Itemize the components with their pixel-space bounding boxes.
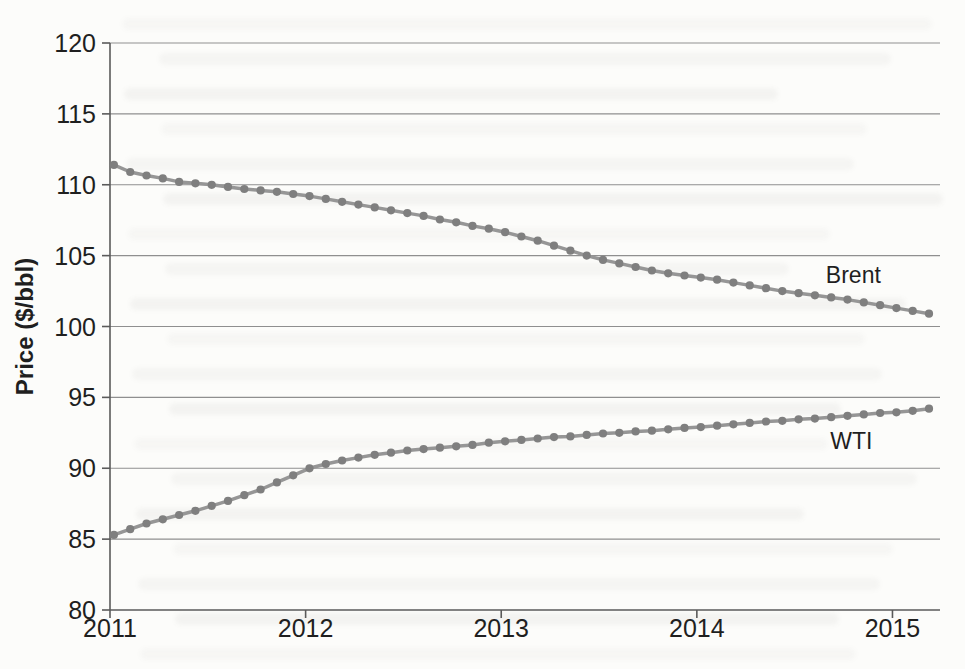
brent-data-point — [501, 228, 509, 236]
brent-data-point — [208, 181, 216, 189]
wti-data-point — [354, 454, 362, 462]
brent-data-point — [680, 271, 688, 279]
y-tick-label-120: 120 — [54, 29, 96, 57]
brent-data-point — [778, 287, 786, 295]
wti-data-point — [452, 442, 460, 450]
y-tick-label-90: 90 — [68, 454, 96, 482]
wti-data-point — [648, 427, 656, 435]
wti-data-point — [305, 464, 313, 472]
brent-data-point — [452, 218, 460, 226]
wti-data-point — [795, 415, 803, 423]
brent-data-point — [795, 289, 803, 297]
brent-data-point — [191, 179, 199, 187]
brent-data-point — [843, 296, 851, 304]
y-tick-label-110: 110 — [56, 171, 96, 199]
brent-data-point — [811, 291, 819, 299]
wti-data-point — [843, 412, 851, 420]
wti-data-point — [289, 471, 297, 479]
wti-data-point — [583, 431, 591, 439]
wti-data-point — [273, 478, 281, 486]
brent-data-point — [224, 183, 232, 191]
brent-data-point — [468, 222, 476, 230]
wti-data-point — [322, 460, 330, 468]
brent-data-point — [876, 301, 884, 309]
y-tick-label-115: 115 — [56, 100, 96, 128]
wti-data-point — [436, 444, 444, 452]
series-label-brent: Brent — [826, 262, 882, 288]
wti-data-point — [110, 531, 118, 539]
wti-data-point — [713, 422, 721, 430]
wti-data-point — [664, 425, 672, 433]
wti-data-point — [827, 413, 835, 421]
brent-data-point — [534, 237, 542, 245]
wti-data-point — [142, 519, 150, 527]
wti-data-point — [762, 417, 770, 425]
wti-data-point — [387, 449, 395, 457]
brent-data-point — [925, 310, 933, 318]
brent-data-point — [403, 209, 411, 217]
wti-series-markers — [110, 405, 933, 539]
brent-data-point — [713, 276, 721, 284]
brent-data-point — [354, 201, 362, 209]
brent-data-point — [697, 274, 705, 282]
wti-data-point — [159, 515, 167, 523]
wti-data-point — [778, 417, 786, 425]
x-tick-label-2013: 2013 — [473, 614, 529, 642]
wti-series-line — [114, 409, 929, 535]
book-page-scan: 8085909510010511011512020112012201320142… — [0, 0, 965, 669]
brent-data-point — [517, 232, 525, 240]
y-tick-label-95: 95 — [68, 383, 96, 411]
x-tick-label-2012: 2012 — [278, 614, 334, 642]
brent-data-point — [240, 185, 248, 193]
wti-data-point — [257, 485, 265, 493]
brent-data-point — [338, 198, 346, 206]
wti-data-point — [892, 408, 900, 416]
brent-data-point — [371, 203, 379, 211]
wti-data-point — [420, 445, 428, 453]
wti-data-point — [746, 419, 754, 427]
wti-data-point — [615, 429, 623, 437]
wti-data-point — [599, 429, 607, 437]
wti-data-point — [632, 427, 640, 435]
wti-data-point — [501, 437, 509, 445]
y-axis-title: Price ($/bbl) — [11, 258, 38, 395]
x-tick-label-2015: 2015 — [865, 614, 921, 642]
wti-data-point — [729, 420, 737, 428]
wti-data-point — [517, 436, 525, 444]
wti-data-point — [224, 497, 232, 505]
y-tick-label-85: 85 — [68, 525, 96, 553]
brent-data-point — [159, 174, 167, 182]
wti-data-point — [534, 434, 542, 442]
brent-data-point — [126, 168, 134, 176]
wti-data-point — [191, 507, 199, 515]
wti-data-point — [860, 410, 868, 418]
brent-data-point — [110, 161, 118, 169]
brent-data-point — [485, 225, 493, 233]
brent-data-point — [599, 256, 607, 264]
wti-data-point — [550, 433, 558, 441]
brent-data-point — [550, 242, 558, 250]
brent-data-point — [387, 206, 395, 214]
brent-data-point — [762, 284, 770, 292]
wti-data-point — [371, 451, 379, 459]
wti-data-point — [468, 441, 476, 449]
brent-data-point — [305, 192, 313, 200]
brent-data-point — [664, 269, 672, 277]
brent-data-point — [436, 215, 444, 223]
y-tick-label-105: 105 — [54, 242, 96, 270]
wti-data-point — [485, 439, 493, 447]
oil-futures-price-chart: 8085909510010511011512020112012201320142… — [0, 0, 965, 669]
wti-data-point — [240, 491, 248, 499]
wti-data-point — [566, 432, 574, 440]
wti-data-point — [126, 525, 134, 533]
wti-data-point — [909, 407, 917, 415]
wti-data-point — [876, 409, 884, 417]
wti-data-point — [697, 423, 705, 431]
brent-data-point — [142, 171, 150, 179]
brent-data-point — [746, 281, 754, 289]
brent-data-point — [827, 293, 835, 301]
brent-data-point — [909, 307, 917, 315]
brent-data-point — [860, 298, 868, 306]
y-tick-label-100: 100 — [54, 313, 96, 341]
wti-data-point — [680, 424, 688, 432]
